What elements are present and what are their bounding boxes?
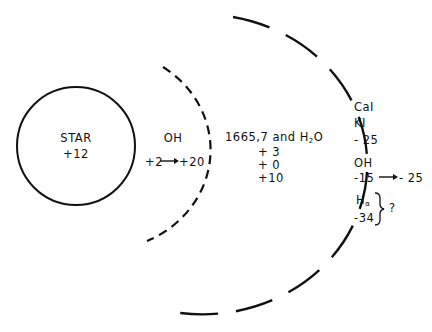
outer-halpha-label: Hα	[356, 193, 370, 211]
halpha-sub: α	[365, 200, 370, 208]
outer-ki-label: KI	[354, 116, 366, 130]
star-title: STAR	[56, 131, 96, 145]
inner-oh-velocity-from: +2	[145, 155, 163, 169]
arrow-icon	[379, 174, 398, 180]
middle-velocity-3: +10	[258, 171, 284, 185]
outer-oh-velocity-from: -15	[354, 171, 374, 185]
inner-oh-velocity-to: +20	[179, 155, 205, 169]
middle-velocity-2: + 0	[258, 158, 280, 172]
brace-icon	[375, 193, 384, 225]
star-circle	[17, 87, 135, 205]
middle-velocity-1: + 3	[258, 145, 280, 159]
outer-cak-velocity: - 25	[354, 133, 378, 147]
inner-dashed-shell	[147, 67, 211, 241]
star-velocity: +12	[56, 147, 96, 161]
outer-oh-velocity-to: - 25	[399, 171, 423, 185]
question-mark: ?	[389, 201, 396, 215]
middle-species-text: 1665,7 and H	[225, 130, 309, 144]
middle-species-suffix: O	[314, 130, 324, 144]
outer-halpha-velocity: -34	[354, 211, 374, 225]
inner-oh-label: OH	[158, 131, 188, 145]
outer-oh-label: OH	[354, 156, 373, 170]
outer-cai-label: CaI	[354, 100, 374, 114]
halpha-h: H	[356, 193, 365, 207]
